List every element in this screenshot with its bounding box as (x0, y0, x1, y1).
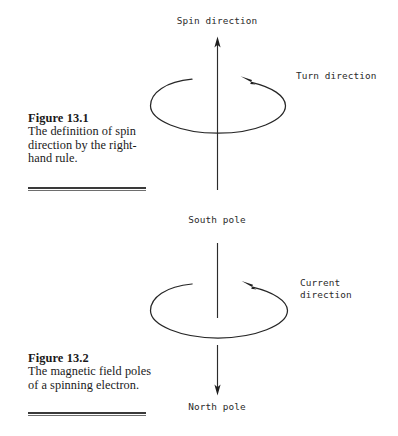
figure-13-1-caption: Figure 13.1 The definition of spin direc… (28, 112, 160, 166)
caption-rule-line-primary (28, 187, 146, 189)
figure-13-2-caption-title: Figure 13.2 (28, 352, 160, 365)
lower-rotation-label: Currentdirection (300, 277, 352, 300)
upper-rotation-label: Turn direction (296, 70, 376, 82)
figure-13-2-caption-body: The magnetic field poles of a spinning e… (28, 365, 160, 392)
upper-rotation-arrowhead (241, 76, 256, 84)
upper-axis-arrowhead (214, 37, 220, 48)
lower-rotation-label-line1: Current (300, 277, 340, 288)
figure-page: Spin direction Turn direction South pole… (0, 0, 398, 436)
caption-rule-line-secondary (28, 415, 146, 416)
caption-rule-line-secondary (28, 190, 146, 191)
figure-13-1-caption-title: Figure 13.1 (28, 112, 160, 125)
upper-diagram (151, 37, 286, 191)
upper-axis-bottom-label: South pole (188, 214, 245, 226)
lower-axis-arrowhead (214, 385, 220, 396)
lower-axis-bottom-label: North pole (188, 401, 245, 413)
figure-13-1-caption-rule (28, 187, 146, 191)
lower-rotation-arrowhead (242, 281, 257, 289)
lower-diagram (151, 243, 288, 396)
figure-13-1-caption-body: The definition of spin direction by the … (28, 125, 160, 165)
upper-axis-top-label: Spin direction (177, 15, 257, 27)
lower-rotation-ellipse (151, 284, 288, 338)
upper-rotation-ellipse (151, 79, 286, 133)
figure-13-2-caption-rule (28, 412, 146, 416)
lower-rotation-label-line2: direction (300, 289, 352, 300)
caption-rule-line-primary (28, 412, 146, 414)
figure-13-2-caption: Figure 13.2 The magnetic field poles of … (28, 352, 160, 392)
